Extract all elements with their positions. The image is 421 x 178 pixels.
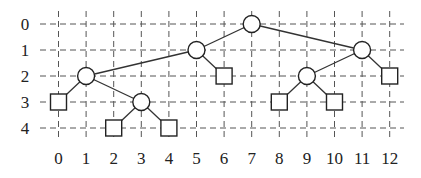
x-axis-label: 0 — [54, 149, 63, 168]
x-axis-label: 8 — [275, 149, 284, 168]
internal-node-circle — [188, 42, 205, 59]
x-axis-label: 2 — [109, 149, 118, 168]
x-axis-label: 5 — [192, 149, 201, 168]
x-axis-label: 4 — [165, 149, 174, 168]
x-axis-label: 11 — [354, 149, 370, 168]
leaf-node-square — [51, 94, 67, 110]
y-axis-labels: 01234 — [21, 15, 30, 138]
x-axis-label: 12 — [381, 149, 398, 168]
tree-diagram: 0123456789101112 01234 — [0, 0, 421, 178]
leaf-node-square — [327, 94, 343, 110]
x-axis-labels: 0123456789101112 — [54, 149, 398, 168]
x-axis-label: 6 — [220, 149, 229, 168]
x-axis-label: 1 — [82, 149, 91, 168]
internal-node-circle — [78, 68, 95, 85]
leaf-node-square — [382, 68, 398, 84]
leaf-node-square — [271, 94, 287, 110]
internal-node-circle — [133, 94, 150, 111]
x-axis-label: 10 — [326, 149, 343, 168]
x-axis-label: 3 — [137, 149, 146, 168]
leaf-node-square — [106, 120, 122, 136]
y-axis-label: 2 — [21, 67, 30, 86]
y-axis-label: 4 — [21, 119, 30, 138]
internal-node-circle — [354, 42, 371, 59]
y-axis-label: 1 — [21, 41, 30, 60]
x-axis-label: 9 — [303, 149, 312, 168]
y-axis-label: 3 — [21, 93, 30, 112]
x-axis-label: 7 — [247, 149, 256, 168]
internal-node-circle — [243, 16, 260, 33]
internal-node-circle — [298, 68, 315, 85]
leaf-node-square — [216, 68, 232, 84]
y-axis-label: 0 — [21, 15, 30, 34]
leaf-node-square — [161, 120, 177, 136]
